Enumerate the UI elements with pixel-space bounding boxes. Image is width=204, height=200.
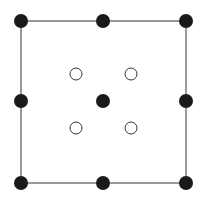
filled-point-corner-top-left [14, 14, 28, 28]
filled-point-corner-bottom-left [14, 176, 28, 190]
filled-point-edge-right-mid [179, 94, 193, 108]
open-point-inner-top-right [125, 68, 137, 80]
filled-point-edge-top-mid [96, 14, 110, 28]
filled-point-corner-bottom-right [179, 176, 193, 190]
filled-point-corner-top-right [179, 14, 193, 28]
open-point-inner-bottom-right [125, 122, 137, 134]
open-point-inner-bottom-left [70, 122, 82, 134]
filled-point-edge-left-mid [14, 94, 28, 108]
open-point-inner-top-left [70, 68, 82, 80]
filled-point-center [96, 94, 110, 108]
filled-points [14, 14, 193, 190]
lattice-diagram [0, 0, 204, 200]
filled-point-edge-bottom-mid [96, 176, 110, 190]
